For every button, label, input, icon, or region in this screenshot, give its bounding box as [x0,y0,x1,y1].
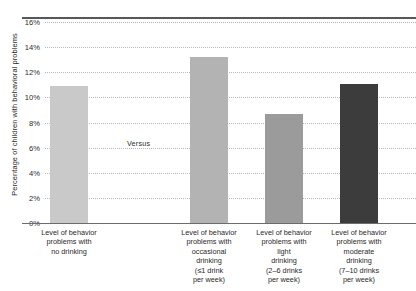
category-label-line: (7–10 drinks [316,266,402,275]
bar [340,84,378,223]
gridline [45,72,416,73]
y-axis-title: Percentage of children with behavioral p… [10,5,19,225]
category-label-line: problems with [26,237,112,246]
category-label-line: drinking [241,256,327,265]
category-label-line: per week) [241,275,327,284]
category-label-line: per week) [166,275,252,284]
category-label-line: per week) [316,275,402,284]
category-label-line: moderate [316,247,402,256]
y-axis-tick-label: 10% [25,93,40,102]
bar [265,114,303,223]
category-label-line: drinking [166,256,252,265]
y-axis-tick-label: 6% [29,143,40,152]
bar [50,86,88,223]
x-axis-category-label: Level of behaviorproblems withmoderatedr… [316,228,402,284]
category-label-line: (2–6 drinks [241,266,327,275]
y-axis-tick-label: 4% [29,168,40,177]
category-label-line: problems with [241,237,327,246]
category-label-line: Level of behavior [166,228,252,237]
y-axis-tick-label: 16% [25,18,40,27]
bar-chart: Percentage of children with behavioral p… [0,0,416,291]
category-label-line: drinking [316,256,402,265]
category-label-line: occasional [166,247,252,256]
y-axis-tick-label: 8% [29,118,40,127]
category-label-line: Level of behavior [26,228,112,237]
x-axis-category-label: Level of behaviorproblems withno drinkin… [26,228,112,256]
bar [190,57,228,223]
category-label-line: light [241,247,327,256]
category-label-line: no drinking [26,247,112,256]
x-axis-category-label: Level of behaviorproblems withoccasional… [166,228,252,284]
y-axis-tick-label: 12% [25,68,40,77]
category-label-line: (≤1 drink [166,266,252,275]
top-rule [22,17,416,19]
x-axis-line [22,223,416,224]
y-axis-tick-label: 14% [25,43,40,52]
gridline [45,22,416,23]
versus-annotation: Versus [127,139,150,148]
plot-area: 0%2%4%6%8%10%12%14%16% Versus [45,22,416,223]
gridline [45,47,416,48]
category-label-line: Level of behavior [316,228,402,237]
y-axis-tick-label: 2% [29,193,40,202]
category-label-line: problems with [316,237,402,246]
category-label-line: Level of behavior [241,228,327,237]
x-axis-category-label: Level of behaviorproblems withlightdrink… [241,228,327,284]
category-label-line: problems with [166,237,252,246]
x-axis-category-labels: Level of behaviorproblems withno drinkin… [45,228,416,290]
